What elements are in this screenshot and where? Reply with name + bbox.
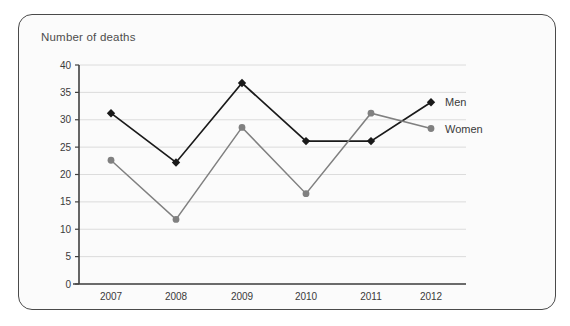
y-axis-label-0: 0 <box>65 279 71 290</box>
plot-area: 0510152025303540200720082009201020112012… <box>19 15 557 311</box>
data-point-men-2012[interactable] <box>427 98 435 106</box>
y-axis-label-30: 30 <box>60 114 72 125</box>
y-axis-label-15: 15 <box>60 196 72 207</box>
y-axis-label-35: 35 <box>60 87 72 98</box>
data-point-women-2009[interactable] <box>239 124 246 131</box>
data-point-women-2008[interactable] <box>173 216 180 223</box>
legend-label-men[interactable]: Men <box>445 96 466 108</box>
series-line-men <box>111 83 431 162</box>
y-axis-label-40: 40 <box>60 60 72 71</box>
x-axis-label-2008: 2008 <box>165 291 188 302</box>
x-axis-label-2007: 2007 <box>100 291 123 302</box>
legend-label-women[interactable]: Women <box>445 123 483 135</box>
y-axis-label-20: 20 <box>60 169 72 180</box>
data-point-women-2010[interactable] <box>303 190 310 197</box>
x-axis-label-2009: 2009 <box>231 291 254 302</box>
line-chart-svg: 0510152025303540200720082009201020112012… <box>19 15 557 311</box>
y-axis-label-10: 10 <box>60 224 72 235</box>
x-axis-label-2011: 2011 <box>360 291 382 302</box>
y-axis-label-5: 5 <box>65 251 71 262</box>
chart-card: Number of deaths 05101520253035402007200… <box>18 14 556 310</box>
x-axis-label-2012: 2012 <box>420 291 443 302</box>
data-point-women-2007[interactable] <box>108 157 115 164</box>
x-axis-label-2010: 2010 <box>295 291 318 302</box>
data-point-women-2012[interactable] <box>428 125 435 132</box>
y-axis-label-25: 25 <box>60 142 72 153</box>
data-point-men-2011[interactable] <box>367 137 375 145</box>
series-line-women <box>111 113 431 219</box>
data-point-women-2011[interactable] <box>368 110 375 117</box>
